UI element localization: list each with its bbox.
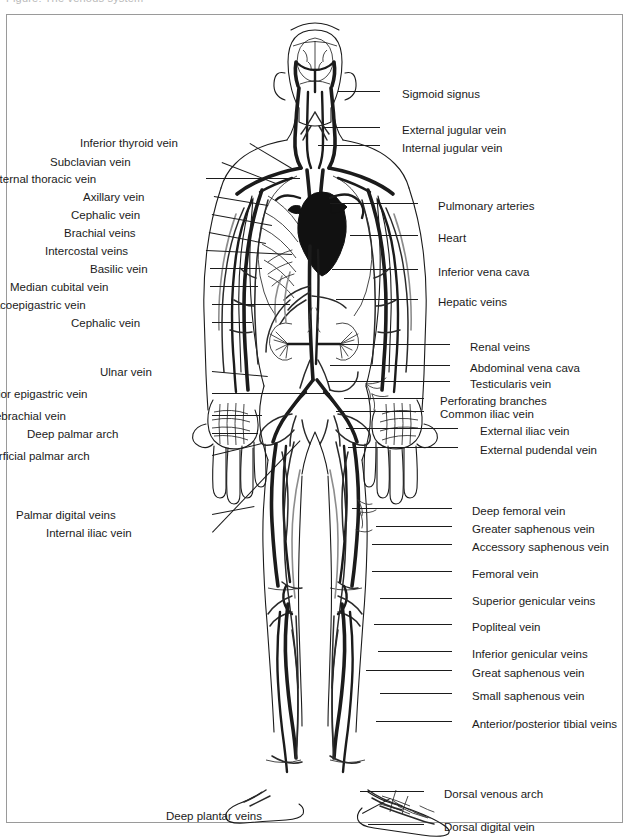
label-hepatic-veins: Hepatic veins: [438, 296, 507, 308]
label-inferior-genicular-veins: Inferior genicular veins: [472, 648, 588, 660]
label-inferior-vena-cava: Inferior vena cava: [438, 266, 529, 278]
label-heart: Heart: [438, 232, 466, 244]
label-great-saphenous-vein: Great saphenous vein: [472, 667, 585, 679]
leader-line: [328, 381, 450, 382]
leader-line: [212, 433, 258, 434]
label-sigmoid-signus: Sigmoid signus: [402, 88, 480, 100]
leader-line: [344, 398, 424, 399]
leader-line: [360, 791, 424, 792]
label-cephalic-vein: Cephalic vein: [71, 209, 140, 221]
leader-line: [210, 286, 258, 287]
leader-line: [212, 393, 330, 394]
label-abdominal-vena-cava: Abdominal vena cava: [470, 362, 580, 374]
label-inferior-epigastric-vein: Inferior epigastric vein: [0, 388, 88, 400]
label-deep-plantar-veins: Deep plantar veins: [166, 810, 262, 822]
leader-line: [212, 322, 252, 323]
label-palmar-digital-veins: Palmar digital veins: [16, 509, 116, 521]
label-small-saphenous-vein: Small saphenous vein: [472, 690, 585, 702]
label-internal-iliac-vein: Internal iliac vein: [46, 527, 132, 539]
leader-line: [372, 544, 452, 545]
leader-line: [212, 415, 262, 416]
label-brachial-veins: Brachial veins: [64, 227, 136, 239]
leader-line: [330, 344, 450, 345]
leader-line: [372, 571, 452, 572]
label-intercostal-veins: Intercostal veins: [45, 245, 128, 257]
label-superficial-palmar-arch: Superficial palmar arch: [0, 450, 90, 462]
leader-line: [366, 670, 452, 671]
label-common-iliac-vein: Common iliac vein: [440, 408, 534, 420]
leader-line: [212, 304, 290, 305]
label-anterior-posterior-tibial-veins: Anterior/posterior tibial veins: [472, 718, 617, 730]
label-median-cubital-vein: Median cubital vein: [10, 281, 108, 293]
leader-line: [350, 235, 418, 236]
label-renal-veins: Renal veins: [470, 341, 530, 353]
label-external-pudendal-vein: External pudendal vein: [480, 444, 597, 456]
leader-line: [336, 299, 418, 300]
label-ulnar-vein: Ulnar vein: [100, 366, 152, 378]
leader-line: [330, 365, 450, 366]
leader-line: [338, 91, 380, 92]
diagram-page: Figure: The venous system .o{fill:none;s…: [0, 0, 631, 837]
leader-line: [210, 268, 262, 269]
leader-line: [380, 598, 452, 599]
cropped-caption-strip: Figure: The venous system: [0, 0, 631, 14]
leader-line: [318, 145, 380, 146]
label-dorsal-venous-arch: Dorsal venous arch: [444, 788, 543, 800]
leader-line: [322, 127, 380, 128]
label-dorsal-digital-vein: Dorsal digital vein: [444, 821, 535, 833]
leader-line: [352, 508, 452, 509]
label-pulmonary-arteries: Pulmonary arteries: [438, 200, 535, 212]
leader-line: [346, 428, 458, 429]
label-deep-femoral-vein: Deep femoral vein: [472, 505, 565, 517]
leader-line: [378, 651, 452, 652]
leader-line: [206, 178, 300, 179]
label-femoral-vein: Femoral vein: [472, 568, 538, 580]
label-internal-thoracic-vein: Internal thoracic vein: [0, 173, 96, 185]
label-external-jugular-vein: External jugular vein: [402, 124, 506, 136]
label-deep-palmar-arch: Deep palmar arch: [27, 428, 118, 440]
label-median-antebrachial-vein: Median antebrachial vein: [0, 410, 66, 422]
leader-line: [376, 721, 452, 722]
label-external-iliac-vein: External iliac vein: [480, 425, 569, 437]
label-greater-saphenous-vein: Greater saphenous vein: [472, 523, 595, 535]
label-testicularis-vein: Testicularis vein: [470, 378, 551, 390]
leader-line: [374, 624, 452, 625]
label-inferior-thyroid-vein: Inferior thyroid vein: [80, 137, 178, 149]
leader-line: [330, 203, 418, 204]
cropped-caption-text: Figure: The venous system: [6, 0, 143, 4]
label-axillary-vein: Axillary vein: [83, 191, 144, 203]
leader-line: [376, 526, 452, 527]
label-accessory-saphenous-vein: Accessory saphenous vein: [472, 541, 609, 553]
label-basilic-vein: Basilic vein: [90, 263, 148, 275]
leader-line: [332, 269, 418, 270]
label-superior-genicular-veins: Superior genicular veins: [472, 595, 595, 607]
label-perforating-branches: Perforating branches: [440, 395, 547, 407]
label-subclavian-vein: Subclavian vein: [50, 156, 131, 168]
label-cephalic-vein: Cephalic vein: [71, 317, 140, 329]
label-internal-jugular-vein: Internal jugular vein: [402, 142, 502, 154]
leader-line: [368, 824, 424, 825]
label-popliteal-vein: Popliteal vein: [472, 621, 540, 633]
leader-line: [348, 447, 458, 448]
label-thoracoepigastric-vein: Thoracoepigastric vein: [0, 299, 86, 311]
leader-line: [380, 693, 452, 694]
leader-line: [336, 411, 424, 412]
